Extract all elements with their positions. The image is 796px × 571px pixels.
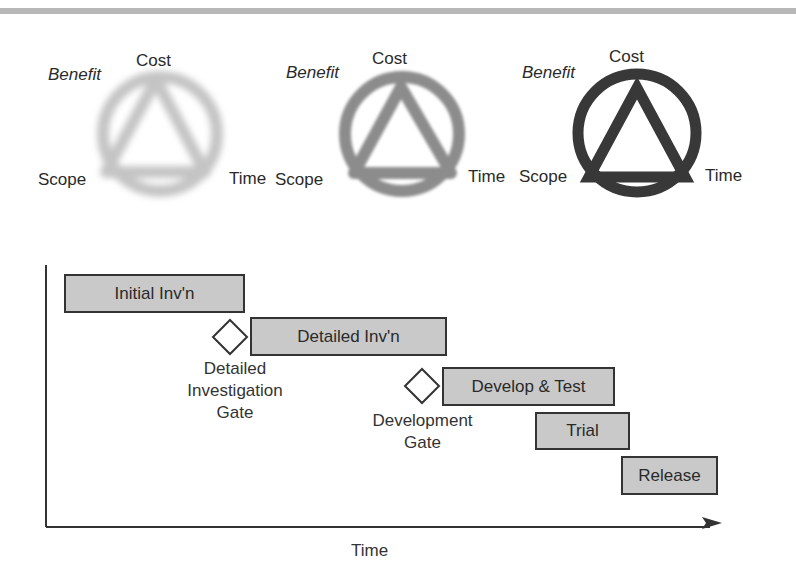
x-axis-label: Time (351, 541, 388, 561)
phase-label: Detailed Inv'n (297, 327, 399, 347)
tri1-benefit-label: Benefit (48, 66, 101, 83)
phase-bar-detailed-investigation: Detailed Inv'n (250, 317, 447, 356)
tri3-scope-label: Scope (519, 168, 567, 185)
x-axis-arrowhead (702, 517, 722, 529)
phase-bar-develop-test: Develop & Test (442, 367, 615, 406)
phase-label: Release (638, 466, 700, 486)
tri2-scope-label: Scope (275, 171, 323, 188)
tri2-benefit-label: Benefit (286, 64, 339, 81)
tri3-benefit-label: Benefit (522, 64, 575, 81)
gate-label-development: Development Gate (355, 410, 490, 454)
phase-label: Initial Inv'n (115, 284, 195, 304)
tri3-time-label: Time (705, 167, 742, 184)
phase-label: Develop & Test (471, 377, 585, 397)
tri1-cost-label: Cost (136, 52, 171, 69)
phase-bar-release: Release (621, 456, 718, 495)
phase-bar-initial-investigation: Initial Inv'n (64, 274, 245, 313)
gate-diamond-icon-detailed (213, 320, 247, 354)
gate-diamond-icon-development (405, 369, 439, 403)
triangle-circle-icon-medium (345, 77, 459, 191)
phase-label: Trial (566, 421, 598, 441)
phase-bar-trial: Trial (535, 412, 630, 450)
triangle-circle-icon-light (103, 77, 217, 191)
tri2-cost-label: Cost (372, 50, 407, 67)
triangle-circle-icon-dark (578, 74, 696, 192)
tri1-scope-label: Scope (38, 171, 86, 188)
tri1-time-label: Time (229, 170, 266, 187)
tri3-cost-label: Cost (609, 48, 644, 65)
gate-label-detailed-investigation: Detailed Investigation Gate (170, 358, 300, 424)
tri2-time-label: Time (468, 168, 505, 185)
